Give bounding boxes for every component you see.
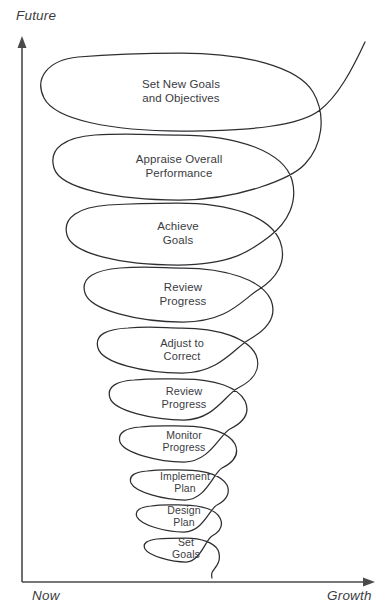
horizontal-axis <box>22 578 375 587</box>
axis-label-now: Now <box>32 588 60 603</box>
axis-label-growth: Growth <box>327 588 372 603</box>
spiral-graphic <box>0 0 385 616</box>
spiral-diagram: Set New Goals and Objectives Appraise Ov… <box>0 0 385 616</box>
spiral-coil <box>41 42 365 578</box>
vertical-axis <box>18 36 27 582</box>
axis-label-future: Future <box>16 8 56 23</box>
